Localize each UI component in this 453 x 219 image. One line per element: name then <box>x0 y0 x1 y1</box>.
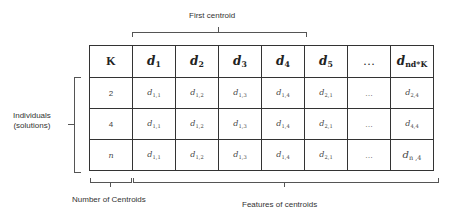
header-d4: d4 <box>262 46 305 78</box>
first-centroid-brace <box>132 32 307 37</box>
individuals-label-line1: Individuals <box>13 111 51 121</box>
cell: d1,4 <box>262 109 305 140</box>
header-d3: d3 <box>219 46 262 78</box>
table-row: n d1,1 d1,2 d1,3 d1,4 d2,1 … dn ,4 <box>90 140 434 171</box>
cell: d4,4 <box>391 109 434 140</box>
cell-k: n <box>90 140 133 171</box>
number-of-centroids-brace <box>90 178 132 183</box>
features-brace-tick <box>284 182 285 187</box>
cell: d2,1 <box>305 140 348 171</box>
header-d1: d1 <box>133 46 176 78</box>
header-d5: d5 <box>305 46 348 78</box>
number-of-centroids-brace-tick <box>110 182 111 187</box>
individuals-label: Individuals (solutions) <box>13 111 51 131</box>
cell: d2,1 <box>305 109 348 140</box>
cell: d2,1 <box>305 78 348 109</box>
cell-ellipsis: … <box>348 78 391 109</box>
cell: dn ,4 <box>391 140 434 171</box>
header-k: K <box>90 46 133 78</box>
features-of-centroids-label: Features of centroids <box>242 200 317 209</box>
cell: d1,1 <box>133 140 176 171</box>
cell-ellipsis: … <box>348 140 391 171</box>
cell: d1,3 <box>219 140 262 171</box>
cell: d1,2 <box>176 109 219 140</box>
table-row: 2 d1,1 d1,2 d1,3 d1,4 d2,1 … d2,4 <box>90 78 434 109</box>
table-row: 4 d1,1 d1,2 d1,3 d1,4 d2,1 … d4,4 <box>90 109 434 140</box>
cell: d1,4 <box>262 140 305 171</box>
features-brace <box>133 178 439 183</box>
cell: d2,4 <box>391 78 434 109</box>
first-centroid-label: First centroid <box>189 11 235 20</box>
individuals-label-line2: (solutions) <box>13 121 51 131</box>
cell-ellipsis: … <box>348 109 391 140</box>
cell: d1,3 <box>219 78 262 109</box>
cell: d1,1 <box>133 78 176 109</box>
individuals-brace-tick <box>68 124 74 125</box>
number-of-centroids-label: Number of Centroids <box>72 195 146 204</box>
cell-k: 4 <box>90 109 133 140</box>
cell: d1,1 <box>133 109 176 140</box>
individuals-brace <box>74 77 81 173</box>
header-dndk: dnd*K <box>391 46 434 78</box>
header-d2: d2 <box>176 46 219 78</box>
header-ellipsis: … <box>348 46 391 78</box>
centroid-encoding-table: K d1 d2 d3 d4 d5 … dnd*K 2 d1,1 d1,2 d1,… <box>89 45 434 171</box>
cell-k: 2 <box>90 78 133 109</box>
first-centroid-brace-tick <box>218 27 219 32</box>
cell: d1,4 <box>262 78 305 109</box>
cell: d1,2 <box>176 78 219 109</box>
cell: d1,3 <box>219 109 262 140</box>
cell: d1,2 <box>176 140 219 171</box>
header-row: K d1 d2 d3 d4 d5 … dnd*K <box>90 46 434 78</box>
